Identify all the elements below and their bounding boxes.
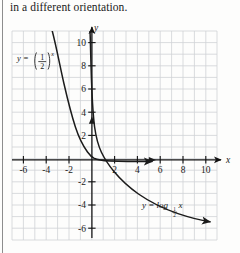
annotation-argument: x xyxy=(178,200,183,210)
y-axis-label: y xyxy=(93,25,99,33)
x-tick-label: 4 xyxy=(135,165,140,175)
x-tick-label: 8 xyxy=(181,165,186,175)
logarithmic-curve-annotation: y = log 1 2 x xyxy=(141,200,183,218)
y-tick-label: -6 xyxy=(78,224,86,234)
fraction-paren-group: 1 2 xyxy=(35,53,50,72)
y-tick-label: 6 xyxy=(81,84,86,94)
fraction-denominator: 2 xyxy=(40,62,44,71)
y-tick-label: 10 xyxy=(77,38,87,48)
subscript-denominator: 2 xyxy=(173,212,176,218)
x-tick-label: -4 xyxy=(42,165,50,175)
x-tick-label: 6 xyxy=(158,165,163,175)
x-axis-label: x xyxy=(225,155,231,165)
figure-container: -6 -4 -2 2 4 6 8 10 10 8 6 4 2 -2 -4 -6 … xyxy=(0,25,240,253)
fraction-numerator: 1 xyxy=(40,53,44,62)
header-text: in a different orientation. xyxy=(10,1,127,13)
annotation-lhs: y = xyxy=(16,53,29,63)
annotation-exponent: x xyxy=(50,51,54,57)
x-tick-label: 10 xyxy=(201,165,211,175)
subscript-numerator: 1 xyxy=(173,206,176,212)
y-tick-label: 8 xyxy=(81,61,86,71)
x-tick-label: -6 xyxy=(19,165,27,175)
x-tick-label: -2 xyxy=(65,165,73,175)
annotation-lhs: y = log xyxy=(141,200,169,210)
y-tick-label: 4 xyxy=(81,108,86,118)
y-tick-label: -2 xyxy=(78,177,86,187)
y-tick-label: -4 xyxy=(78,200,86,210)
y-tick-label: 2 xyxy=(81,131,86,141)
